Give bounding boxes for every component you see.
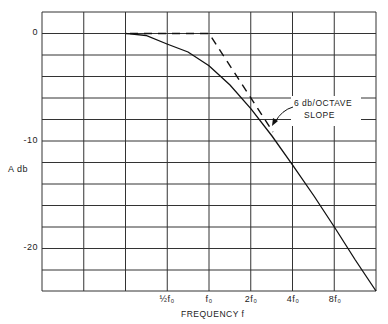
x-tick-4f0: 4f₀	[278, 294, 308, 304]
asymptote-dashed-line	[130, 34, 273, 133]
y-axis-label: A db	[8, 164, 28, 174]
bode-plot	[0, 0, 388, 324]
x-axis-label: FREQUENCY f	[181, 309, 244, 319]
grid	[42, 12, 376, 291]
x-tick-2f0: 2f₀	[236, 294, 266, 304]
y-tick-minus10: -10	[8, 135, 38, 145]
annotation-line2: SLOPE	[304, 110, 335, 120]
x-tick-f0: f₀	[194, 294, 224, 304]
y-tick-0: 0	[8, 27, 38, 37]
x-tick-half-f0: ½f₀	[152, 294, 182, 304]
x-tick-8f0: 8f₀	[320, 294, 350, 304]
y-tick-minus20: -20	[8, 242, 38, 252]
annotation-line1: 6 db/OCTAVE	[294, 98, 352, 108]
